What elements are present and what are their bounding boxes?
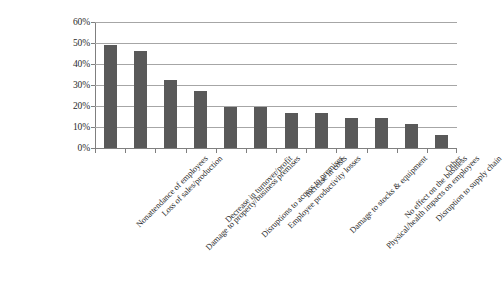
y-axis-tick-label: 40% (73, 59, 95, 69)
bar-slot (367, 22, 397, 148)
x-label-slot: Employee productivity losses (246, 154, 276, 289)
y-axis-tick-label: 50% (73, 38, 95, 48)
x-tick-slot (246, 149, 276, 153)
bar (315, 113, 328, 148)
x-label-slot: Disruption to supply chain (397, 154, 427, 289)
bar (345, 118, 358, 148)
x-tick-slot (155, 149, 185, 153)
bar (285, 113, 298, 148)
bar (164, 80, 177, 148)
x-tick-mark (306, 149, 307, 153)
x-label-slot: Loss of sales/production (125, 154, 155, 289)
bar-slot (186, 22, 216, 148)
x-tick-slot (367, 149, 397, 153)
x-tick-mark (276, 149, 277, 153)
bar-slot (246, 22, 276, 148)
bar (104, 45, 117, 148)
bar (405, 124, 418, 148)
bar-slot (336, 22, 366, 148)
x-tick-slot (125, 149, 155, 153)
y-axis-tick-label: 10% (73, 122, 95, 132)
x-label-slot: Decrease in turnover/profit (186, 154, 216, 289)
bar-slot (95, 22, 125, 148)
bar-slot (216, 22, 246, 148)
x-label-slot: Damage to stocks & equipment (306, 154, 336, 289)
x-tick-slot (186, 149, 216, 153)
bar-slot (427, 22, 457, 148)
x-tick-mark (367, 149, 368, 153)
bar-slot (276, 22, 306, 148)
bar-slot (125, 22, 155, 148)
x-tick-slot (276, 149, 306, 153)
bar (134, 51, 147, 148)
plot-area: 60%50%40%30%20%10%0% (95, 22, 457, 148)
x-label-slot: Disruptions to access to premises (216, 154, 246, 289)
x-tick-slot (427, 149, 457, 153)
x-tick-mark (427, 149, 428, 153)
x-label-slot: Increase in costs (276, 154, 306, 289)
x-tick-mark (186, 149, 187, 153)
bar (194, 91, 207, 148)
x-axis-labels-group: Nonattendance of employeesLoss of sales/… (95, 154, 457, 289)
x-tick-mark (397, 149, 398, 153)
bar-slot (155, 22, 185, 148)
bar (224, 107, 237, 148)
x-tick-slot (306, 149, 336, 153)
y-axis-tick-label: 0% (78, 143, 95, 153)
x-tick-mark (125, 149, 126, 153)
x-label-slot: Nonattendance of employees (95, 154, 125, 289)
x-tick-slot (95, 149, 125, 153)
y-axis-tick-label: 60% (73, 17, 95, 27)
x-tick-slot (216, 149, 246, 153)
bar (254, 107, 267, 148)
x-tick-mark (155, 149, 156, 153)
y-axis-tick-label: 20% (73, 101, 95, 111)
x-tick-mark (246, 149, 247, 153)
x-label-slot: Other (427, 154, 457, 289)
bars-group (95, 22, 457, 148)
x-label-slot: Damage to property/business premises (155, 154, 185, 289)
y-axis-tick-label: 30% (73, 80, 95, 90)
bar (375, 118, 388, 148)
x-label-slot: No effect on the business (367, 154, 397, 289)
bar-slot (397, 22, 427, 148)
x-axis-ticks-group (95, 149, 457, 153)
x-label-slot: Physical/health impacts on employees (336, 154, 366, 289)
bar-slot (306, 22, 336, 148)
bar (435, 135, 448, 148)
x-tick-mark (95, 149, 96, 153)
